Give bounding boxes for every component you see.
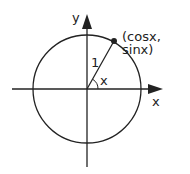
angle-arc xyxy=(93,80,98,90)
x-axis-label: x xyxy=(152,95,160,108)
x-axis-arrow-icon xyxy=(148,84,163,94)
angle-label: x xyxy=(100,74,108,87)
y-axis-arrow-icon xyxy=(82,14,92,29)
radius-label: 1 xyxy=(91,56,99,69)
point-label: (cosx, sinx) xyxy=(122,30,190,56)
y-axis-label: y xyxy=(72,11,80,24)
unit-circle-diagram xyxy=(0,0,190,174)
point-marker xyxy=(111,38,117,44)
